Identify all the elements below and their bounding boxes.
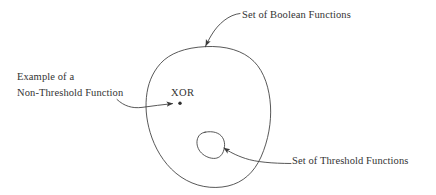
inner-blob-outline bbox=[197, 132, 225, 159]
label-example-line-1: Example of a bbox=[17, 69, 123, 85]
label-set-of-boolean-functions: Set of Boolean Functions bbox=[242, 7, 351, 23]
outer-blob-outline bbox=[146, 46, 271, 187]
xor-example-leader-line bbox=[117, 100, 173, 108]
xor-point-marker bbox=[178, 102, 181, 105]
label-example-line-2: Non-Threshold Function bbox=[17, 85, 123, 101]
label-example-non-threshold-function: Example of a Non-Threshold Function bbox=[17, 69, 123, 101]
label-set-of-threshold-functions: Set of Threshold Functions bbox=[292, 153, 408, 169]
label-xor: XOR bbox=[171, 85, 194, 101]
boolean-set-leader-line bbox=[206, 14, 240, 46]
threshold-set-leader-line bbox=[224, 148, 291, 163]
diagram-canvas: Set of Boolean Functions Set of Threshol… bbox=[0, 0, 436, 195]
